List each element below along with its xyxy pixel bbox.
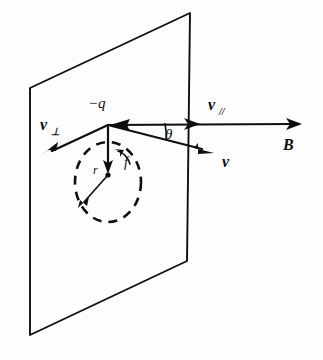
v-parallel-label: v bbox=[208, 96, 216, 113]
v-parallel-label-group: v // bbox=[208, 96, 226, 117]
magnetic-field-label: B bbox=[282, 136, 294, 153]
v-perp-line bbox=[52, 125, 108, 151]
v-perp-subscript: ⊥ bbox=[51, 126, 60, 137]
magnetic-field-vector bbox=[108, 118, 302, 130]
radius-vector bbox=[78, 175, 108, 208]
radius-label: r bbox=[93, 163, 98, 177]
theta-label: θ bbox=[165, 126, 173, 142]
diagram-canvas: −q v ⊥ v // B θ v r f bbox=[0, 0, 323, 360]
radius-line bbox=[84, 175, 108, 202]
v-parallel-subscript: // bbox=[218, 106, 226, 117]
velocity-arrowhead bbox=[194, 143, 214, 154]
charge-label: −q bbox=[88, 95, 106, 111]
field-arrow-line bbox=[108, 124, 293, 125]
v-perp-arrowhead bbox=[40, 142, 58, 156]
downward-component-arrow bbox=[103, 127, 113, 174]
v-perp-label-group: v ⊥ bbox=[40, 116, 60, 137]
velocity-vector bbox=[108, 125, 214, 154]
v-perp-label: v bbox=[40, 116, 48, 133]
physics-figure: −q v ⊥ v // B θ v r f bbox=[0, 0, 323, 360]
velocity-label: v bbox=[222, 153, 230, 170]
